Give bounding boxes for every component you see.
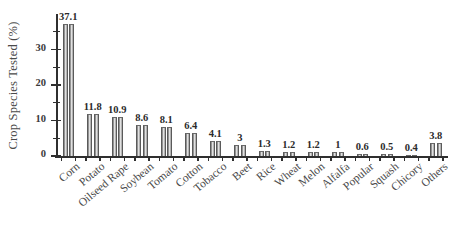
- y-tick-label-20: 20: [36, 77, 47, 88]
- bar-segment: [192, 133, 197, 156]
- y-tick-label-0: 0: [41, 148, 46, 159]
- bar-segment: [143, 125, 148, 156]
- bar-segment: [363, 154, 368, 156]
- bar: 1: [331, 152, 344, 156]
- bar-segment: [210, 141, 215, 156]
- bar-segment: [357, 154, 362, 156]
- bar: 11.8: [86, 114, 99, 156]
- bar-segment: [332, 152, 337, 156]
- bar-segment: [381, 154, 386, 156]
- bar-segment: [412, 155, 417, 156]
- bar-value-label: 1: [335, 139, 340, 150]
- bar-segment: [161, 127, 166, 156]
- y-minor-tick-35: [53, 31, 60, 32]
- bar-segment: [241, 145, 246, 156]
- bar-segment: [94, 114, 99, 156]
- bar-value-label: 3.8: [429, 130, 442, 141]
- plot-area: 0102030 37.111.810.98.68.16.44.131.31.21…: [56, 14, 448, 156]
- bar-value-label: 37.1: [59, 11, 77, 22]
- bar: 1.2: [282, 152, 295, 156]
- bar: 4.1: [209, 141, 222, 156]
- bar-segment: [63, 24, 68, 156]
- bar-segment: [259, 151, 264, 156]
- bar-value-label: 6.4: [184, 120, 197, 131]
- bar: 37.1: [62, 24, 75, 156]
- bar: 0.5: [380, 154, 393, 156]
- bar: 0.4: [405, 155, 418, 156]
- bar-segment: [406, 155, 411, 156]
- bar-segment: [430, 143, 435, 156]
- bar: 1.2: [307, 152, 320, 156]
- bar: 0.6: [356, 154, 369, 156]
- bar-segment: [87, 114, 92, 156]
- bar-value-label: 1.2: [307, 139, 320, 150]
- bar-segment: [216, 141, 221, 156]
- bar-value-label: 8.6: [135, 112, 148, 123]
- x-axis-label-others: Others: [418, 160, 449, 189]
- bar: 1.3: [258, 151, 271, 156]
- bar-segment: [167, 127, 172, 156]
- bar-segment: [314, 152, 319, 156]
- x-axis-labels: CornPotatoOilseed RapeSoybeanTomatoCotto…: [56, 160, 448, 243]
- bar-segment: [290, 152, 295, 156]
- bar-value-label: 1.3: [258, 138, 271, 149]
- y-tick-10: 10: [51, 120, 61, 121]
- x-axis-label-wheat: Wheat: [272, 160, 303, 188]
- y-tick-20: 20: [51, 84, 61, 85]
- y-tick-label-10: 10: [36, 113, 47, 124]
- y-minor-tick-15: [53, 102, 60, 103]
- y-tick-label-30: 30: [36, 42, 47, 53]
- bar-value-label: 4.1: [209, 128, 222, 139]
- bar-segment: [388, 154, 393, 156]
- bar: 10.9: [111, 117, 124, 156]
- bar: 3.8: [429, 143, 442, 156]
- bar-segment: [112, 117, 117, 156]
- bar-value-label: 3: [237, 132, 242, 143]
- bar-segment: [283, 152, 288, 156]
- y-minor-tick-5: [53, 138, 60, 139]
- x-axis-label-beet: Beet: [230, 160, 254, 183]
- bar-segment: [69, 24, 74, 156]
- y-axis-title: Crop Species Tested (%): [6, 21, 21, 149]
- bar-value-label: 8.1: [160, 114, 173, 125]
- bar-value-label: 10.9: [108, 104, 126, 115]
- bar-segment: [437, 143, 442, 156]
- y-minor-tick-25: [53, 67, 60, 68]
- bar: 8.6: [135, 125, 148, 156]
- y-tick-0: 0: [51, 155, 61, 156]
- bar-segment: [185, 133, 190, 156]
- bar-value-label: 1.2: [282, 139, 295, 150]
- bar-segment: [118, 117, 123, 156]
- bar: 6.4: [184, 133, 197, 156]
- bar-value-label: 0.5: [380, 141, 393, 152]
- bar-segment: [136, 125, 141, 156]
- bar-segment: [265, 151, 270, 156]
- bar-segment: [339, 152, 344, 156]
- bar: 3: [233, 145, 246, 156]
- bar-segment: [234, 145, 239, 156]
- bar-value-label: 0.4: [405, 142, 418, 153]
- y-tick-30: 30: [51, 49, 61, 50]
- bar-value-label: 11.8: [84, 101, 102, 112]
- bar-value-label: 0.6: [356, 141, 369, 152]
- bar-segment: [308, 152, 313, 156]
- bar: 8.1: [160, 127, 173, 156]
- x-axis-line: [55, 156, 448, 158]
- bar-chart-figure: Crop Species Tested (%) 0102030 37.111.8…: [0, 0, 454, 243]
- y-axis-title-container: Crop Species Tested (%): [0, 0, 26, 170]
